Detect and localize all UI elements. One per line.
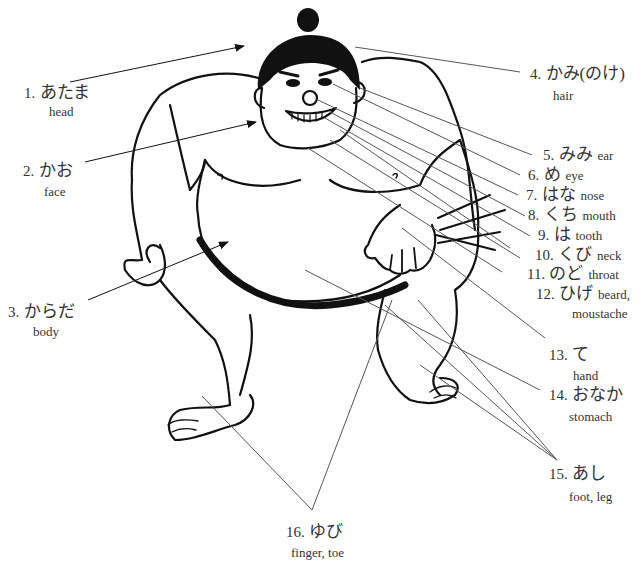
eye-right <box>319 79 331 85</box>
sumo-figure <box>124 8 505 440</box>
leader-tooth <box>325 118 530 236</box>
leader-leg-1 <box>418 300 557 460</box>
mawashi-belt <box>200 240 405 306</box>
label-stomach-en: stomach <box>569 410 612 423</box>
label-ear: 5. みみear <box>543 146 613 163</box>
chest <box>205 160 300 186</box>
label-foot-en: foot, leg <box>569 490 612 503</box>
label-body-jp: 3. からだ <box>8 303 75 320</box>
leader-hair <box>355 47 520 72</box>
label-hand-jp: 13. て <box>549 346 589 363</box>
leader-beard <box>340 130 510 248</box>
left-arm <box>124 180 165 285</box>
hand <box>365 205 435 274</box>
label-hair-en: hair <box>553 89 573 102</box>
label-head-jp: 1. あたま <box>24 84 90 101</box>
leader-stomach <box>305 270 540 390</box>
label-stomach-jp: 14. おなか <box>549 386 623 403</box>
leader-head <box>70 46 244 82</box>
nose <box>303 91 317 105</box>
label-foot-jp: 15. あし <box>549 465 606 482</box>
sumo-illustration <box>0 0 641 566</box>
label-tooth: 9. はtooth <box>538 226 602 243</box>
label-mouth: 8. くちmouth <box>528 206 616 223</box>
label-face-en: face <box>44 185 66 198</box>
topknot <box>297 8 319 32</box>
leader-neck <box>330 140 520 258</box>
left-shoulder <box>132 74 258 180</box>
leader-nose <box>318 100 518 195</box>
leader-eye <box>333 84 520 175</box>
label-beard: 12. ひげbeard, <box>536 285 630 302</box>
brow-right <box>320 70 338 75</box>
label-head-en: head <box>49 105 74 118</box>
label-finger-en: finger, toe <box>291 546 344 559</box>
leader-toe <box>202 396 312 510</box>
left-leg <box>160 280 230 405</box>
label-finger-jp: 16. ゆび <box>286 523 343 540</box>
right-shoulder <box>362 58 475 230</box>
leader-body <box>88 242 228 300</box>
leader-finger <box>312 300 392 510</box>
leader-face <box>85 122 256 162</box>
hair <box>258 35 360 90</box>
label-face-jp: 2. かお <box>23 162 73 179</box>
label-beard-en2: moustache <box>572 307 628 320</box>
label-body-en: body <box>33 325 59 338</box>
label-hair-jp: 4. かみ(のけ) <box>530 65 625 82</box>
brow-left <box>280 72 298 76</box>
leader-leg-2 <box>420 365 557 460</box>
leader-leg-3 <box>385 305 557 460</box>
leader-ear <box>360 88 532 155</box>
mouth <box>286 108 336 121</box>
left-foot <box>169 395 253 440</box>
label-neck: 10. くびneck <box>535 246 622 263</box>
label-nose: 7. はなnose <box>526 186 604 203</box>
label-hand-en: hand <box>573 369 598 382</box>
label-eye: 6. めeye <box>528 166 584 183</box>
eye-left <box>287 80 299 86</box>
label-throat: 11. のどthroat <box>527 265 619 282</box>
